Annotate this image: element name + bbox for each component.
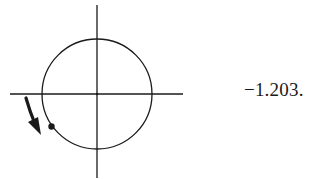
angle-point <box>48 123 54 129</box>
value-label: −1.203. <box>244 79 304 101</box>
origin-point <box>96 93 98 95</box>
clockwise-arrow-icon <box>26 98 41 135</box>
